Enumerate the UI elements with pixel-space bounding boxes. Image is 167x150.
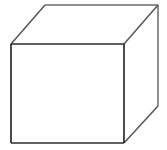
- figure-canvas: [0, 0, 167, 150]
- cube-diagram: [0, 0, 167, 150]
- cube-faces-group: [11, 5, 158, 143]
- cube-face-front: [11, 44, 124, 143]
